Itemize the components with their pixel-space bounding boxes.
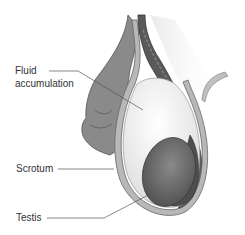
testis-label: Testis	[16, 212, 42, 224]
scrotum-label: Scrotum	[16, 163, 53, 175]
hydrocele-illustration	[0, 0, 245, 235]
fluid-label-line2: accumulation	[15, 78, 74, 90]
fluid-label-line1: Fluid	[15, 65, 37, 77]
